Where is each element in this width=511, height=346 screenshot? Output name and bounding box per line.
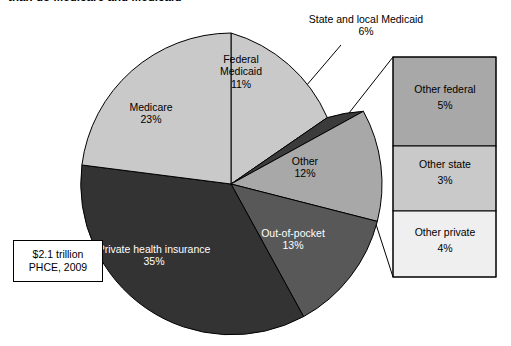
total-callout-source: PHCE, 2009 xyxy=(29,261,87,274)
breakout-label-other-private: Other private 4% xyxy=(393,225,497,257)
total-callout-box: $2.1 trillion PHCE, 2009 xyxy=(13,240,103,282)
callout-state-local-medicaid: State and local Medicaid 6% xyxy=(292,13,440,38)
pie-label-medicare-name: Medicare xyxy=(129,101,172,113)
breakout-label-other-federal-pct: 5% xyxy=(437,99,452,111)
pie-label-medicare-pct: 23% xyxy=(111,113,191,125)
breakout-label-other-private-pct: 4% xyxy=(437,242,452,254)
pie-label-federal-medicaid-name: Federal xyxy=(223,53,259,65)
pie-label-federal-medicaid: Federal Medicaid 11% xyxy=(207,53,275,90)
breakout-label-other-federal: Other federal 5% xyxy=(393,82,497,114)
chart-canvas: than do Medicare and Medicaid xyxy=(0,0,511,346)
breakout-label-other-private-name: Other private xyxy=(415,226,476,238)
pie-label-other: Other 12% xyxy=(279,155,331,180)
pie-label-other-name: Other xyxy=(292,155,318,167)
pie-label-federal-medicaid-pct: 11% xyxy=(207,78,275,90)
pie-label-federal-medicaid-name2: Medicaid xyxy=(220,65,262,77)
pie-label-out-of-pocket: Out-of-pocket 13% xyxy=(249,227,337,252)
pie-label-private-health-insurance-name: Private health insurance xyxy=(98,243,211,255)
pie-label-private-health-insurance-pct: 35% xyxy=(85,255,223,267)
breakout-label-other-federal-name: Other federal xyxy=(414,83,475,95)
breakout-label-other-state-name: Other state xyxy=(419,158,471,170)
total-callout-amount: $2.1 trillion xyxy=(33,248,84,261)
pie-label-private-health-insurance: Private health insurance 35% xyxy=(85,243,223,268)
pie-label-other-pct: 12% xyxy=(279,167,331,179)
breakout-label-other-state-pct: 3% xyxy=(437,174,452,186)
pie-label-out-of-pocket-pct: 13% xyxy=(249,239,337,251)
callout-state-local-medicaid-value: 6% xyxy=(292,25,440,37)
pie-label-out-of-pocket-name: Out-of-pocket xyxy=(261,227,325,239)
breakout-label-other-state: Other state 3% xyxy=(393,157,497,189)
pie-label-medicare: Medicare 23% xyxy=(111,101,191,126)
callout-state-local-medicaid-label: State and local Medicaid xyxy=(309,13,423,25)
